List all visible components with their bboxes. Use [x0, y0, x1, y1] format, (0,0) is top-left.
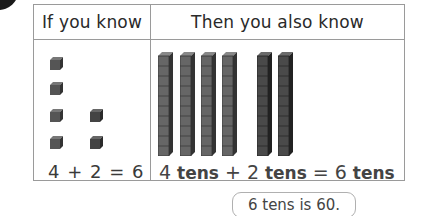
header-if-you-know: If you know: [34, 5, 150, 39]
eq-addend-2: 2: [247, 161, 259, 183]
unit-cube-icon: [50, 136, 62, 148]
ten-rod-icon: [278, 52, 292, 155]
corner-badge-circle: [0, 0, 18, 10]
eq-equals: =: [307, 161, 335, 183]
eq-unit: tens: [259, 163, 307, 183]
place-value-table: If you know Then you also know: [33, 4, 405, 181]
header-then-you-also-know: Then you also know: [151, 5, 404, 39]
ones-equation: 4 + 2 = 6: [48, 161, 144, 182]
unit-cube-icon: [90, 109, 102, 121]
callout-bubble: 6 tens is 60.: [232, 192, 356, 216]
unit-cube-icon: [90, 136, 102, 148]
tens-equation: 4 tens + 2 tens = 6 tens: [159, 161, 395, 183]
eq-unit: tens: [347, 163, 395, 183]
eq-sum: 6: [335, 161, 347, 183]
ten-rod-icon: [158, 52, 172, 155]
ten-rod-icon: [257, 52, 271, 155]
eq-plus: +: [219, 161, 247, 183]
unit-cube-icon: [50, 57, 62, 69]
eq-unit: tens: [171, 163, 219, 183]
eq-addend-1: 4: [159, 161, 171, 183]
header-divider: [34, 39, 404, 40]
unit-cube-icon: [50, 109, 62, 121]
ten-rod-icon: [180, 52, 194, 155]
unit-cube-icon: [50, 82, 62, 94]
ten-rod-icon: [201, 52, 215, 155]
ten-rod-icon: [222, 52, 236, 155]
